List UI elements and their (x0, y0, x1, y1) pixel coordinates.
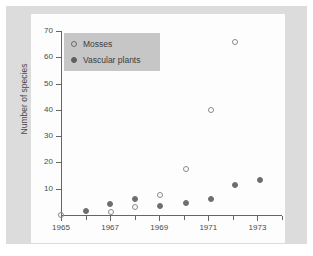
y-axis-tick (56, 189, 61, 190)
x-axis-tick-label: 1969 (139, 224, 179, 232)
figure-root: Number of species 1020304050607019651967… (0, 0, 313, 256)
y-axis-tick-label: 50 (23, 80, 53, 88)
x-axis-minor-tick (86, 216, 87, 220)
legend: Mosses Vascular plants (64, 33, 160, 71)
x-axis-minor-tick (233, 216, 234, 220)
data-point (132, 196, 138, 202)
filled-circle-icon (71, 57, 77, 63)
data-point (132, 204, 138, 210)
x-axis-tick-label: 1965 (41, 224, 81, 232)
x-axis-tick (257, 216, 258, 221)
data-point (208, 107, 214, 113)
x-axis-tick-label: 1971 (188, 224, 228, 232)
y-axis-tick-label: 30 (23, 132, 53, 140)
x-axis-minor-tick (135, 216, 136, 220)
y-axis-tick-label: 10 (23, 185, 53, 193)
y-axis-tick (56, 136, 61, 137)
y-axis-tick (56, 57, 61, 58)
data-point (58, 212, 64, 218)
data-point (232, 39, 238, 45)
y-axis-tick-label: 20 (23, 158, 53, 166)
data-point (257, 177, 263, 183)
y-axis-tick-label: 70 (23, 27, 53, 35)
legend-entry-vascular-plants: Vascular plants (71, 53, 140, 67)
x-axis-tick-label: 1967 (90, 224, 130, 232)
y-axis-tick (56, 162, 61, 163)
legend-label-mosses: Mosses (83, 40, 112, 49)
x-axis-tick-label: 1973 (237, 224, 277, 232)
y-axis-tick (56, 110, 61, 111)
legend-label-vascular-plants: Vascular plants (83, 56, 140, 65)
x-axis-line (61, 215, 282, 216)
data-point (208, 196, 214, 202)
y-axis-tick-label: 60 (23, 53, 53, 61)
x-axis-tick (159, 216, 160, 221)
open-circle-icon (71, 41, 77, 47)
y-axis-line (61, 31, 62, 216)
x-axis-minor-tick (184, 216, 185, 220)
x-axis-tick (110, 216, 111, 221)
x-axis-tick (208, 216, 209, 221)
y-axis-tick-label: 40 (23, 106, 53, 114)
legend-entry-mosses: Mosses (71, 37, 112, 51)
data-point (83, 208, 89, 214)
y-axis-tick (56, 84, 61, 85)
x-axis-minor-tick (282, 216, 283, 220)
y-axis-tick (56, 31, 61, 32)
